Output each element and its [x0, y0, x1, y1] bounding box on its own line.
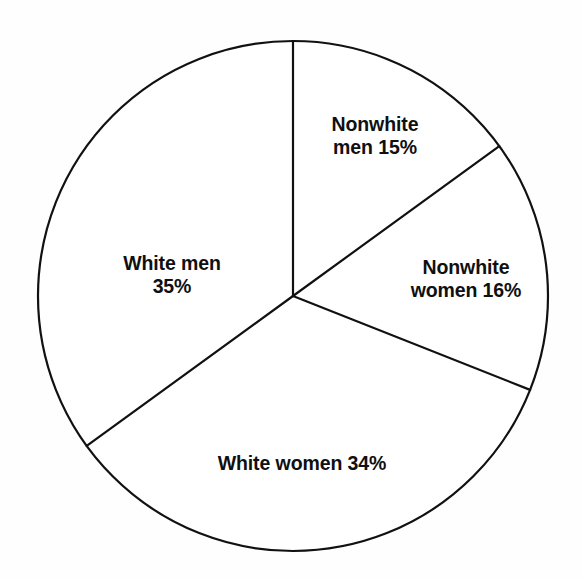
slice-label-line-2: women 16%: [411, 279, 522, 301]
slice-label-line-2: 35%: [153, 275, 192, 297]
slice-label-line-2: men 15%: [333, 136, 417, 158]
slice-label-nonwhite-men: Nonwhitemen 15%: [307, 113, 443, 159]
slice-label-white-women: White women 34%: [204, 452, 400, 475]
slice-label-line-1: Nonwhite: [332, 113, 419, 135]
slice-label-line-1: White women 34%: [218, 452, 387, 474]
slice-label-line-1: White men: [123, 252, 221, 274]
pie-chart-figure: Nonwhitemen 15% Nonwhitewomen 16% White …: [0, 0, 582, 579]
slice-label-nonwhite-women: Nonwhitewomen 16%: [390, 256, 542, 302]
slice-label-white-men: White men35%: [97, 252, 247, 298]
slice-label-line-1: Nonwhite: [423, 256, 510, 278]
